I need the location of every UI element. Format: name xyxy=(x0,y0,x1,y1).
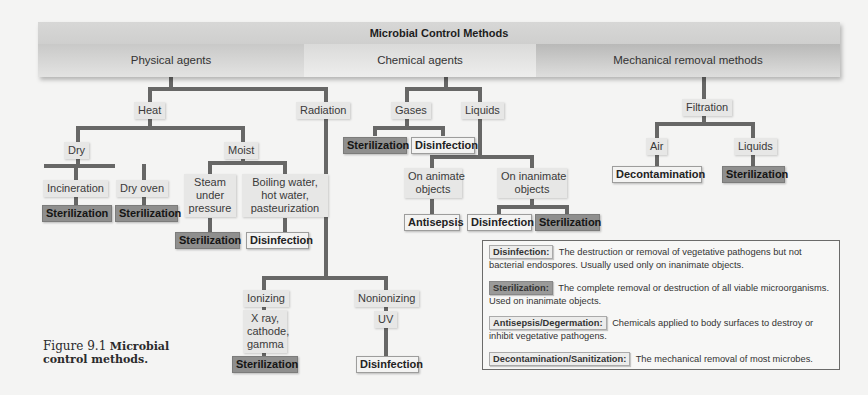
result-antisepsis: Antisepsis xyxy=(404,214,460,231)
legend-item-sterilization: Sterilization: The complete removal or d… xyxy=(489,281,833,308)
result-gases-sterilization: Sterilization xyxy=(343,137,407,154)
node-filtration-liquids: Liquids xyxy=(734,138,777,155)
result-filtration-sterilization: Sterilization xyxy=(722,166,785,183)
connector xyxy=(407,77,480,102)
node-air: Air xyxy=(646,138,667,155)
node-on-inanimate-objects: On inanimate objects xyxy=(497,168,567,198)
legend-definition: The mechanical removal of most microbes. xyxy=(636,354,813,364)
caption-text-line1: Microbial xyxy=(110,340,169,353)
legend-item-disinfection: Disinfection: The destruction or removal… xyxy=(489,245,833,272)
node-boiling-water: Boiling water, hot water, pasteurization xyxy=(242,174,328,217)
result-dry-oven-sterilization: Sterilization xyxy=(115,205,178,222)
node-on-animate-objects: On animate objects xyxy=(404,168,462,198)
methods-header: Microbial Control Methods Physical agent… xyxy=(38,22,840,77)
node-filtration: Filtration xyxy=(682,99,732,116)
category-mechanical-removal: Mechanical removal methods xyxy=(536,44,840,77)
figure-caption: Figure 9.1 Microbial control methods. xyxy=(43,340,169,366)
connector xyxy=(78,116,243,142)
connector xyxy=(44,156,144,180)
node-moist: Moist xyxy=(224,142,258,159)
node-steam-under-pressure: Steam under pressure xyxy=(184,174,236,217)
node-ionizing: Ionizing xyxy=(243,290,289,307)
node-gases: Gases xyxy=(391,102,431,119)
result-uv-disinfection: Disinfection xyxy=(356,356,419,373)
result-incineration-sterilization: Sterilization xyxy=(42,205,112,222)
node-uv: UV xyxy=(374,311,397,328)
result-steam-sterilization: Sterilization xyxy=(175,232,240,249)
result-inanimate-disinfection: Disinfection xyxy=(467,214,532,231)
node-heat: Heat xyxy=(134,102,165,119)
legend-term: Sterilization: xyxy=(489,281,553,295)
node-dry: Dry xyxy=(64,142,89,159)
category-physical-agents: Physical agents xyxy=(38,44,304,77)
category-chemical-agents: Chemical agents xyxy=(304,44,536,77)
result-boiling-disinfection: Disinfection xyxy=(246,232,309,249)
legend-term: Disinfection: xyxy=(489,245,553,259)
legend-item-decontamination: Decontamination/Sanitization: The mechan… xyxy=(489,352,833,366)
definitions-legend: Disinfection: The destruction or removal… xyxy=(482,240,840,370)
node-ionizing-types: X ray, cathode, gamma xyxy=(243,310,287,353)
result-gases-disinfection: Disinfection xyxy=(411,137,475,154)
node-nonionizing: Nonionizing xyxy=(354,290,419,307)
node-incineration: Incineration xyxy=(43,180,108,197)
result-decontamination: Decontamination xyxy=(612,166,702,183)
connector xyxy=(375,116,443,136)
connector xyxy=(150,77,326,102)
figure-number: Figure 9.1 xyxy=(43,339,106,353)
result-inanimate-sterilization: Sterilization xyxy=(535,214,600,231)
node-dry-oven: Dry oven xyxy=(116,180,168,197)
legend-item-antisepsis: Antisepsis/Degermation: Chemicals applie… xyxy=(489,316,833,343)
connector xyxy=(210,218,285,232)
connector xyxy=(432,199,567,214)
legend-term: Decontamination/Sanitization: xyxy=(489,352,630,366)
result-ionizing-sterilization: Sterilization xyxy=(232,356,298,373)
legend-term: Antisepsis/Degermation: xyxy=(489,316,607,330)
caption-text-line2: control methods. xyxy=(43,353,148,366)
node-radiation: Radiation xyxy=(296,102,350,119)
node-liquids: Liquids xyxy=(461,102,504,119)
diagram-title: Microbial Control Methods xyxy=(38,22,840,44)
